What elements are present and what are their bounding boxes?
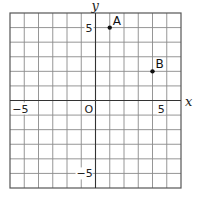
x-axis-label: x [185,94,193,109]
point-marker [108,25,112,29]
tick-label-x-5: 5 [158,103,165,116]
tick-label-y-5: 5 [86,22,93,35]
points-layer: AB [108,14,164,74]
point-label: A [113,14,122,28]
point-label: B [156,57,164,71]
tick-label-y-neg5: −5 [77,167,93,180]
y-axis-label: y [91,0,100,13]
tick-label-x-neg5: −5 [12,103,28,116]
point-marker [150,69,154,73]
origin-label: O [85,103,94,116]
coordinate-plane: x y O −5 5 5 −5 AB [0,0,200,198]
